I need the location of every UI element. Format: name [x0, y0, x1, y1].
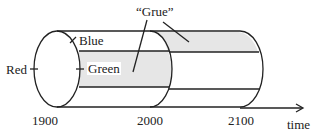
tick-label-2000: 2000: [137, 114, 163, 127]
tick-label-1900: 1900: [32, 114, 58, 127]
blue-label: Blue: [79, 34, 104, 47]
green-label: Green: [87, 62, 121, 75]
blue-band-shade: [156, 32, 258, 52]
tick-label-2100: 2100: [228, 114, 254, 127]
grue-label: “Grue”: [136, 5, 174, 18]
red-label: Red: [6, 63, 27, 76]
time-axis-label: time: [287, 118, 310, 131]
start-ellipse-1900: [34, 31, 80, 107]
